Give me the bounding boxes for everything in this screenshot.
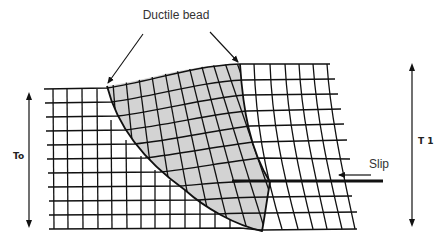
thickness-arrow-to-icon [26,92,32,228]
ductile-bead-label: Ductile bead [143,8,210,22]
ductile-bead-diagram: Slip Ductile bead To T 1 [0,0,442,247]
thickness-label-to: To [13,151,24,161]
ductile-bead-region [107,64,270,231]
grid-vertical-lines-right [254,64,355,229]
thickness-arrow-t1-icon [409,63,415,227]
bead-pointer-arrow-left-icon [108,34,143,83]
bead-pointer-arrow-right-icon [210,32,238,62]
slip-label: Slip [369,157,389,171]
thickness-label-t1: T 1 [418,136,434,146]
